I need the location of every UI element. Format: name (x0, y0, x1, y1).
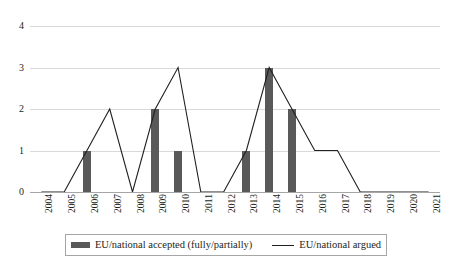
line-swatch-icon (272, 245, 294, 246)
line-path-argued (41, 68, 428, 193)
legend-item-argued: EU/national argued (272, 240, 381, 251)
plot-area: 01234 (30, 26, 440, 192)
chart-container: 01234 2004200520062007200820092010201120… (0, 0, 453, 268)
line-series-svg (30, 26, 440, 192)
x-tick-label-2004: 2004 (45, 194, 55, 213)
y-tick-label-2: 2 (19, 104, 24, 114)
legend-label-argued: EU/national argued (299, 240, 381, 251)
x-tick-label-2010: 2010 (182, 194, 192, 213)
x-tick-label-2017: 2017 (342, 194, 352, 213)
x-tick-label-2008: 2008 (137, 194, 147, 213)
legend-item-accepted: EU/national accepted (fully/partially) (71, 240, 252, 251)
y-tick-label-3: 3 (19, 63, 24, 73)
y-tick-label-4: 4 (19, 21, 24, 31)
chart-legend: EU/national accepted (fully/partially) E… (65, 234, 387, 256)
y-tick-label-0: 0 (19, 187, 24, 197)
x-tick-label-2007: 2007 (114, 194, 124, 213)
x-tick-label-2012: 2012 (228, 194, 238, 213)
x-tick-label-2020: 2020 (410, 194, 420, 213)
legend-label-accepted: EU/national accepted (fully/partially) (95, 240, 252, 251)
y-tick-label-1: 1 (19, 146, 24, 156)
x-tick-label-2006: 2006 (91, 194, 101, 213)
x-tick-label-2018: 2018 (364, 194, 374, 213)
x-tick-label-2013: 2013 (250, 194, 260, 213)
x-tick-label-2005: 2005 (68, 194, 78, 213)
x-tick-label-2016: 2016 (319, 194, 329, 213)
x-tick-label-2011: 2011 (205, 194, 215, 213)
x-axis: 2004200520062007200820092010201120122013… (30, 194, 440, 228)
x-tick-label-2015: 2015 (296, 194, 306, 213)
x-tick-label-2021: 2021 (433, 194, 443, 213)
gridline-0 (30, 192, 440, 193)
bar-swatch-icon (71, 242, 90, 248)
line-series-layer (30, 26, 440, 192)
x-tick-label-2019: 2019 (387, 194, 397, 213)
x-tick-label-2014: 2014 (273, 194, 283, 213)
x-tick-label-2009: 2009 (159, 194, 169, 213)
